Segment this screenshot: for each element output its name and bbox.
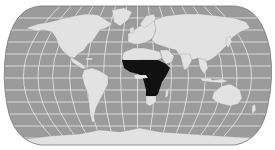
world-map-svg (0, 0, 275, 150)
caribbean (86, 58, 93, 60)
british-isles (130, 27, 134, 33)
world-map (0, 0, 275, 150)
